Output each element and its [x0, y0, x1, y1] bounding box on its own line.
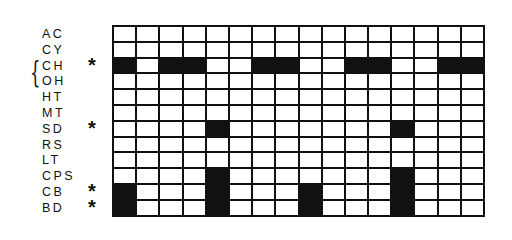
grid-cell-empty [275, 73, 298, 89]
grid-cell-empty [322, 200, 345, 216]
grid-cell-empty [206, 73, 229, 89]
grid-cell-empty [136, 200, 159, 216]
grid-row-lt [113, 152, 484, 168]
grid-cell-empty [275, 105, 298, 121]
grid-cell-empty [345, 89, 368, 105]
grid-cell-filled [391, 184, 414, 200]
grid-cell-empty [113, 42, 136, 58]
grid-cell-empty [461, 168, 484, 184]
grid-cell-empty [345, 42, 368, 58]
row-label-rs: RS [42, 137, 86, 153]
grid-row-oh [113, 73, 484, 89]
grid-cell-empty [136, 26, 159, 42]
grid-cell-empty [461, 200, 484, 216]
grid-cell-empty [414, 168, 437, 184]
grid-cell-empty [438, 200, 461, 216]
grid-cell-empty [461, 89, 484, 105]
grid-cell-empty [368, 121, 391, 137]
grid-cell-empty [414, 137, 437, 153]
grid-cell-empty [461, 121, 484, 137]
grid-cell-filled [159, 58, 182, 74]
grid-cell-empty [391, 152, 414, 168]
grid-row-bd [113, 200, 484, 216]
grid-cell-empty [299, 26, 322, 42]
grid-cell-empty [461, 184, 484, 200]
grid-cell-empty [183, 137, 206, 153]
grid-cell-empty [414, 105, 437, 121]
grid-row-ac [113, 26, 484, 42]
grid-cell-empty [391, 105, 414, 121]
grid-cell-empty [414, 200, 437, 216]
grid-cell-empty [345, 26, 368, 42]
grid-cell-empty [206, 105, 229, 121]
grid-cell-empty [322, 26, 345, 42]
grid-cell-filled [345, 58, 368, 74]
grid-cell-empty [159, 42, 182, 58]
grid-cell-filled [206, 168, 229, 184]
grid-cell-empty [322, 184, 345, 200]
grid-row-cb [113, 184, 484, 200]
brace-group-ch-oh: { [30, 57, 41, 87]
grid-cell-empty [461, 105, 484, 121]
row-label-ac: AC [42, 26, 86, 42]
grid-cell-empty [391, 58, 414, 74]
grid-cell-empty [345, 184, 368, 200]
grid-cell-empty [275, 26, 298, 42]
grid-cell-empty [391, 42, 414, 58]
grid-cell-empty [368, 137, 391, 153]
grid-cell-empty [113, 26, 136, 42]
grid-cell-empty [438, 105, 461, 121]
grid-cell-empty [299, 168, 322, 184]
grid-cell-empty [322, 58, 345, 74]
row-label-sd: SD* [42, 121, 86, 137]
grid-cell-filled [206, 184, 229, 200]
asterisk-marker-icon: * [88, 199, 96, 215]
grid-cell-empty [368, 42, 391, 58]
grid-cell-empty [322, 168, 345, 184]
grid-cell-empty [113, 152, 136, 168]
grid-cell-empty [414, 121, 437, 137]
grid-cell-empty [183, 42, 206, 58]
grid-cell-empty [206, 152, 229, 168]
grid-row-ht [113, 89, 484, 105]
grid-cell-empty [414, 89, 437, 105]
grid-cell-empty [136, 137, 159, 153]
grid-cell-filled [206, 121, 229, 137]
grid-cell-empty [345, 73, 368, 89]
grid-cell-empty [438, 184, 461, 200]
grid-cell-empty [136, 184, 159, 200]
grid-cell-filled [113, 184, 136, 200]
grid-row-ch [113, 58, 484, 74]
grid-cell-empty [414, 58, 437, 74]
grid-cell-empty [391, 73, 414, 89]
grid-cell-empty [113, 121, 136, 137]
grid-cell-empty [252, 200, 275, 216]
grid-cell-empty [322, 152, 345, 168]
grid-cell-empty [183, 121, 206, 137]
grid-row-sd [113, 121, 484, 137]
grid-cell-empty [113, 89, 136, 105]
grid-cell-empty [368, 89, 391, 105]
grid-cell-empty [183, 184, 206, 200]
grid-cell-empty [368, 152, 391, 168]
grid-cell-empty [438, 152, 461, 168]
grid-cell-filled [368, 58, 391, 74]
row-label-bd: BD* [42, 200, 86, 216]
grid-cell-empty [322, 121, 345, 137]
grid-cell-empty [438, 168, 461, 184]
grid-cell-empty [461, 26, 484, 42]
grid-cell-empty [229, 58, 252, 74]
grid-cell-empty [183, 168, 206, 184]
grid-cell-empty [136, 58, 159, 74]
grid-cell-empty [252, 42, 275, 58]
grid-cell-empty [136, 73, 159, 89]
grid-cell-filled [299, 184, 322, 200]
grid-cell-empty [322, 105, 345, 121]
grid-cell-empty [368, 26, 391, 42]
grid-cell-empty [414, 152, 437, 168]
grid-cell-empty [299, 137, 322, 153]
grid-cell-filled [391, 200, 414, 216]
grid-cell-filled [391, 168, 414, 184]
grid-cell-empty [159, 73, 182, 89]
grid-cell-empty [159, 121, 182, 137]
